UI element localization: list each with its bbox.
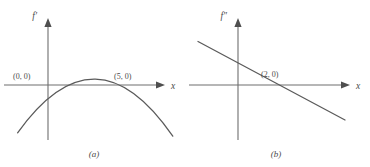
panel-b-point-label-root: (2, 0) — [261, 70, 279, 79]
panel-a-y-axis-label: f′ — [32, 11, 38, 21]
panel-b-y-axis — [234, 18, 241, 140]
panel-b-x-axis — [189, 81, 350, 88]
panel-a-point-label-origin: (0, 0) — [13, 72, 31, 81]
panel-b-x-axis-label: x — [355, 81, 361, 91]
panel-a-graph: f′ x (0, 0) (5, 0) (a) — [0, 0, 185, 167]
panel-a-y-axis — [44, 18, 51, 140]
panel-a-y-axis-arrowhead — [44, 18, 51, 27]
panel-b-second-derivative-line — [198, 42, 345, 121]
panel-b-caption: (b) — [271, 149, 282, 159]
panel-b-graph: f″ x (2, 0) (b) — [185, 0, 370, 167]
figure-container: f′ x (0, 0) (5, 0) (a) f″ x (2, 0) (b) — [0, 0, 370, 167]
panel-b-y-axis-arrowhead — [234, 18, 241, 27]
panel-a-x-axis-label: x — [170, 81, 176, 91]
panel-b-y-axis-label: f″ — [220, 11, 228, 21]
panel-a-x-axis-arrowhead — [156, 81, 165, 88]
panel-a-caption: (a) — [89, 149, 100, 159]
panel-a-x-axis — [4, 81, 165, 88]
panel-a-derivative-curve — [18, 79, 173, 136]
panel-b-x-axis-arrowhead — [341, 81, 350, 88]
panel-a-point-label-root: (5, 0) — [114, 72, 132, 81]
